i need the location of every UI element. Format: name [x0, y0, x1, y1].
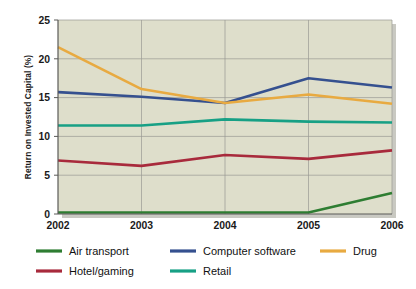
y-tick-label: 25 — [38, 15, 50, 26]
legend-label-computer-software[interactable]: Computer software — [203, 245, 296, 257]
y-tick-label: 10 — [38, 131, 50, 142]
x-tick-label: 2004 — [213, 220, 236, 231]
legend-label-hotel-gaming[interactable]: Hotel/gaming — [69, 265, 134, 277]
y-tick-label: 20 — [38, 54, 50, 65]
x-tick-label: 2005 — [297, 220, 320, 231]
legend-label-air-transport[interactable]: Air transport — [69, 245, 129, 257]
roic-line-chart: 0510152025 20022003200420052006 Return o… — [0, 0, 416, 289]
chart-figure: 0510152025 20022003200420052006 Return o… — [0, 0, 416, 289]
y-axis-title: Return on Invested Capital (%) — [23, 55, 33, 180]
y-tick-label: 0 — [44, 209, 50, 220]
x-tick-label: 2003 — [130, 220, 153, 231]
legend-label-retail[interactable]: Retail — [203, 265, 231, 277]
y-tick-label: 5 — [44, 170, 50, 181]
y-tick-label: 15 — [38, 92, 50, 103]
x-tick-label: 2002 — [46, 220, 69, 231]
x-tick-label: 2006 — [380, 220, 403, 231]
legend-label-drug[interactable]: Drug — [353, 245, 377, 257]
